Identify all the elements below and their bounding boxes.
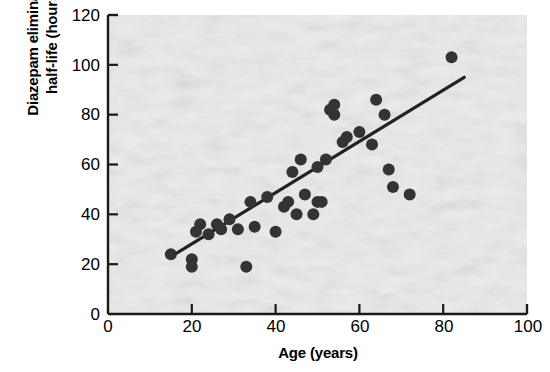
data-point xyxy=(240,261,252,273)
scatter-plot-figure: Diazepam elimination half-life (hours) 1… xyxy=(0,0,550,372)
data-point xyxy=(328,99,340,111)
data-point xyxy=(341,131,353,143)
data-point xyxy=(299,188,311,200)
data-point xyxy=(232,223,244,235)
data-point xyxy=(215,223,227,235)
data-point xyxy=(370,94,382,106)
data-point xyxy=(194,218,206,230)
data-point xyxy=(316,196,328,208)
data-point xyxy=(244,196,256,208)
data-point xyxy=(224,213,236,225)
data-point xyxy=(203,228,215,240)
data-point xyxy=(446,51,458,63)
data-point xyxy=(291,208,303,220)
plot-canvas xyxy=(0,0,550,372)
data-point xyxy=(379,109,391,121)
data-point xyxy=(353,126,365,138)
data-point xyxy=(320,154,332,166)
data-point xyxy=(165,248,177,260)
data-point xyxy=(270,226,282,238)
data-point xyxy=(249,221,261,233)
data-point xyxy=(366,139,378,151)
data-point xyxy=(383,163,395,175)
data-point xyxy=(261,191,273,203)
data-point xyxy=(282,196,294,208)
data-point xyxy=(295,154,307,166)
data-point xyxy=(286,166,298,178)
data-point xyxy=(307,208,319,220)
data-point xyxy=(387,181,399,193)
data-point xyxy=(404,188,416,200)
data-point xyxy=(186,261,198,273)
